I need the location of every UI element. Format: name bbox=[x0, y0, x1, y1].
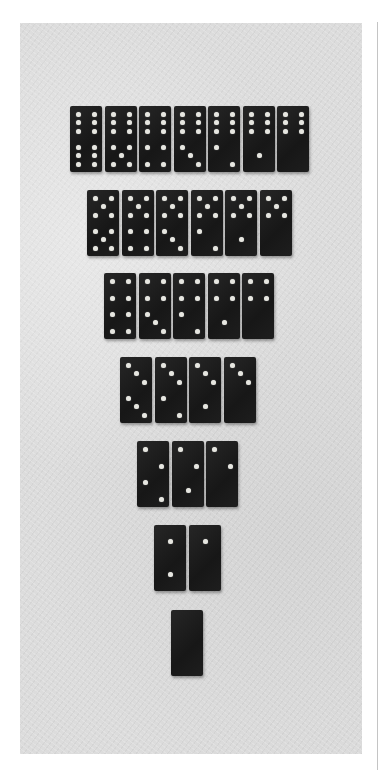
pip-dot bbox=[213, 213, 218, 218]
domino-half-bottom bbox=[277, 139, 309, 172]
pip-dot bbox=[283, 129, 288, 134]
domino-half-top bbox=[189, 357, 221, 390]
domino-3-0 bbox=[224, 357, 256, 423]
pip-dot bbox=[111, 145, 116, 150]
pip-dot bbox=[144, 196, 149, 201]
domino-half-top bbox=[137, 441, 169, 474]
pip-dot bbox=[179, 312, 184, 317]
domino-half-bottom bbox=[139, 306, 171, 339]
pip-dot bbox=[194, 464, 199, 469]
pip-dot bbox=[126, 312, 131, 317]
domino-half-top bbox=[174, 106, 206, 139]
domino-3-3 bbox=[120, 357, 152, 423]
pip-dot bbox=[249, 120, 254, 125]
domino-half-top bbox=[172, 441, 204, 474]
domino-0-0 bbox=[171, 610, 203, 676]
domino-5-2 bbox=[191, 190, 223, 256]
domino-half-bottom bbox=[189, 558, 221, 591]
pip-dot bbox=[266, 196, 271, 201]
pip-dot bbox=[205, 204, 210, 209]
pip-dot bbox=[214, 279, 219, 284]
pip-dot bbox=[92, 129, 97, 134]
domino-3-1 bbox=[189, 357, 221, 423]
domino-2-0 bbox=[206, 441, 238, 507]
pip-dot bbox=[93, 229, 98, 234]
pip-dot bbox=[247, 213, 252, 218]
domino-6-1 bbox=[243, 106, 275, 172]
pip-dot bbox=[145, 145, 150, 150]
domino-5-1 bbox=[225, 190, 257, 256]
pip-dot bbox=[76, 145, 81, 150]
pip-dot bbox=[93, 196, 98, 201]
pip-dot bbox=[195, 363, 200, 368]
pip-dot bbox=[248, 296, 253, 301]
domino-4-2 bbox=[173, 273, 205, 339]
domino-4-4 bbox=[104, 273, 136, 339]
pip-dot bbox=[211, 380, 216, 385]
pip-dot bbox=[169, 371, 174, 376]
pip-dot bbox=[197, 213, 202, 218]
domino-half-bottom bbox=[208, 139, 240, 172]
pip-dot bbox=[111, 129, 116, 134]
pip-dot bbox=[145, 279, 150, 284]
pip-dot bbox=[161, 145, 166, 150]
domino-half-top bbox=[139, 106, 171, 139]
pip-dot bbox=[109, 213, 114, 218]
domino-half-bottom bbox=[120, 390, 152, 423]
domino-half-top bbox=[260, 190, 292, 223]
pip-dot bbox=[228, 464, 233, 469]
domino-4-1 bbox=[208, 273, 240, 339]
pip-dot bbox=[196, 112, 201, 117]
pip-dot bbox=[239, 237, 244, 242]
pip-dot bbox=[180, 112, 185, 117]
pip-dot bbox=[111, 112, 116, 117]
pip-dot bbox=[178, 246, 183, 251]
pip-dot bbox=[230, 162, 235, 167]
pip-dot bbox=[168, 572, 173, 577]
pip-dot bbox=[188, 153, 193, 158]
domino-half-bottom bbox=[87, 223, 119, 256]
pip-dot bbox=[161, 363, 166, 368]
pip-dot bbox=[76, 153, 81, 158]
pip-dot bbox=[299, 129, 304, 134]
pip-dot bbox=[170, 204, 175, 209]
domino-half-top bbox=[122, 190, 154, 223]
pip-dot bbox=[136, 204, 141, 209]
pip-dot bbox=[249, 129, 254, 134]
pip-dot bbox=[203, 404, 208, 409]
pip-dot bbox=[283, 112, 288, 117]
domino-6-4 bbox=[139, 106, 171, 172]
pip-dot bbox=[178, 213, 183, 218]
domino-4-3 bbox=[139, 273, 171, 339]
domino-half-top bbox=[171, 610, 203, 643]
domino-half-top bbox=[243, 106, 275, 139]
pip-dot bbox=[145, 162, 150, 167]
domino-half-bottom bbox=[156, 223, 188, 256]
domino-half-bottom bbox=[155, 390, 187, 423]
domino-1-0 bbox=[189, 525, 221, 591]
pip-dot bbox=[195, 329, 200, 334]
domino-half-bottom bbox=[243, 139, 275, 172]
pip-dot bbox=[230, 296, 235, 301]
pip-dot bbox=[264, 296, 269, 301]
pip-dot bbox=[222, 320, 227, 325]
pip-dot bbox=[110, 312, 115, 317]
domino-half-bottom bbox=[208, 306, 240, 339]
pip-dot bbox=[145, 129, 150, 134]
pip-dot bbox=[246, 380, 251, 385]
pip-dot bbox=[162, 229, 167, 234]
domino-half-bottom bbox=[122, 223, 154, 256]
pip-dot bbox=[170, 237, 175, 242]
pip-dot bbox=[126, 279, 131, 284]
pip-dot bbox=[197, 196, 202, 201]
pip-dot bbox=[159, 497, 164, 502]
pip-dot bbox=[92, 120, 97, 125]
pip-dot bbox=[231, 196, 236, 201]
pip-dot bbox=[230, 279, 235, 284]
domino-half-top bbox=[120, 357, 152, 390]
pip-dot bbox=[145, 296, 150, 301]
domino-half-top bbox=[173, 273, 205, 306]
pip-dot bbox=[126, 296, 131, 301]
pip-dot bbox=[161, 112, 166, 117]
domino-half-bottom bbox=[225, 223, 257, 256]
